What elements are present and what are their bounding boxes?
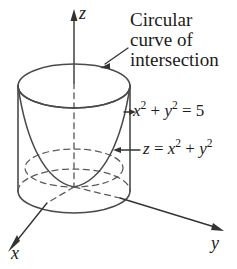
caption-line-3: intersection (130, 50, 236, 70)
y-axis-inside-dashed (74, 187, 120, 198)
figure-canvas: Circular curve of intersection x2 + y2 =… (0, 0, 237, 269)
cylinder-equation-label: x2 + y2 = 5 (133, 102, 204, 119)
caption-line-2: curve of (130, 30, 236, 50)
y-axis-arrowhead (211, 223, 224, 231)
caption-text-block: Circular curve of intersection (130, 10, 236, 69)
x-axis-inside-dashed (47, 187, 74, 203)
x-axis-solid (15, 203, 47, 243)
paraboloid-equation-label: z = x2 + y2 (143, 140, 212, 157)
x-axis-label: x (11, 244, 19, 262)
z-axis-arrowhead (71, 9, 78, 21)
y-axis-solid (120, 198, 218, 228)
cylinder-bottom-front-arc (18, 191, 130, 213)
caption-arrow-line (105, 48, 128, 64)
y-axis-label: y (211, 234, 219, 252)
caption-line-1: Circular (130, 10, 236, 30)
z-axis-label: z (79, 4, 86, 22)
